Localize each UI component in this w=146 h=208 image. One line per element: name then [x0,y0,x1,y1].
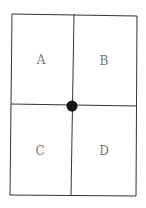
quadrant-diagram: A B C D [0,0,146,208]
quadrant-label-d: D [99,144,109,158]
center-dot [67,101,78,112]
quadrant-label-b: B [100,54,109,68]
quadrant-label-a: A [36,53,46,67]
quadrant-label-c: C [35,144,44,158]
